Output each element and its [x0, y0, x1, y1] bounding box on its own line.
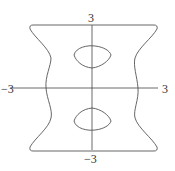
x-max-label: 3 [162, 83, 168, 95]
upper-oval [74, 46, 111, 68]
x-min-label: −3 [1, 83, 14, 95]
y-min-label: −3 [84, 153, 97, 165]
plot-canvas [0, 0, 175, 171]
lower-oval [74, 108, 111, 130]
plot-figure: 3 −3 −3 3 [0, 0, 175, 171]
y-max-label: 3 [88, 12, 94, 24]
